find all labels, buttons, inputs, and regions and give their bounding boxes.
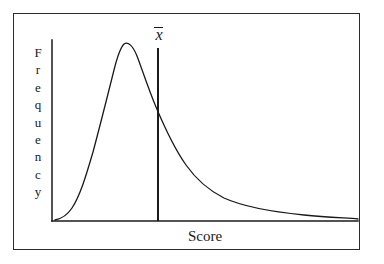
y-axis-label-letter: c — [35, 166, 41, 183]
y-axis-label-letter: r — [36, 61, 40, 78]
y-axis-label-letter: n — [35, 148, 42, 165]
mean-symbol-label: x — [148, 26, 170, 44]
y-axis-label-letter: y — [35, 183, 42, 200]
y-axis-label: F r e q u e n c y — [29, 44, 47, 201]
x-axis-label: Score — [52, 228, 358, 245]
y-axis-label-letter: e — [35, 79, 41, 96]
y-axis-label-letter: u — [35, 114, 42, 131]
y-axis-label-letter: F — [34, 44, 41, 61]
figure-container: F r e q u e n c y Score x — [0, 0, 384, 264]
y-axis-label-letter: q — [35, 96, 42, 113]
y-axis-label-letter: e — [35, 131, 41, 148]
x-bar-glyph: x — [155, 26, 162, 44]
distribution-curve — [55, 43, 358, 220]
distribution-plot — [0, 0, 384, 264]
